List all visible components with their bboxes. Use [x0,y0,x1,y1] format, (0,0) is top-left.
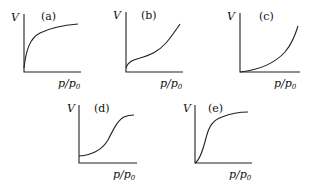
panel-label-b: (b) [141,9,157,22]
isotherm-diagram: V (a) p/p0 V (b) p/p0 V (c) p/p0 V (d) p… [0,0,314,191]
curve-b [126,24,180,68]
panel-label-d: (d) [94,102,110,115]
curve-a [24,24,78,68]
panel-b: V (b) p/p0 [113,9,183,91]
x-label-d: p/p0 [113,168,136,182]
y-label-e: V [183,102,192,115]
panel-c: V (c) p/p0 [227,10,300,91]
y-label-a: V [11,11,20,24]
curve-e [195,112,248,163]
x-label-c: p/p0 [274,77,297,91]
panel-a: V (a) p/p0 [11,10,81,91]
x-label-b: p/p0 [160,77,183,91]
y-label-b: V [113,9,122,22]
axes-e [195,105,252,163]
x-label-e: p/p0 [229,168,252,182]
y-label-c: V [227,10,236,23]
curve-d [79,115,134,156]
panel-label-e: (e) [208,102,223,115]
panel-d: V (d) p/p0 [67,102,137,182]
panel-label-a: (a) [41,10,56,23]
x-label-a: p/p0 [58,77,81,91]
y-label-d: V [67,102,76,115]
panel-label-c: (c) [259,10,274,23]
panel-e: V (e) p/p0 [183,102,252,182]
curve-c [240,26,298,72]
